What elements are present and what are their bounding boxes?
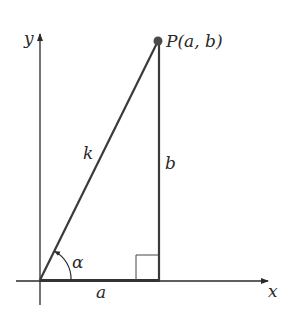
point-p <box>154 37 163 46</box>
x-axis-label: x <box>268 283 278 300</box>
right-triangle-diagram <box>0 0 305 321</box>
right-angle-marker <box>136 255 158 280</box>
hypotenuse-k <box>40 41 158 280</box>
side-a-label: a <box>96 284 106 301</box>
hypotenuse-label: k <box>83 145 93 162</box>
point-p-label: P(a, b) <box>166 33 223 50</box>
angle-arc <box>55 252 71 281</box>
side-b-label: b <box>165 155 176 172</box>
y-axis-label: y <box>24 30 34 47</box>
angle-alpha-label: α <box>72 254 83 271</box>
